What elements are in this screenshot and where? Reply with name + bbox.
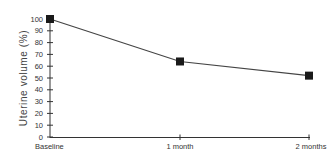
y-tick-label: 80: [35, 38, 43, 47]
y-tick-label: 10: [35, 121, 43, 130]
y-tick-label: 30: [35, 97, 43, 106]
y-tick-label: 60: [35, 62, 43, 71]
x-tick-label: Baseline: [35, 142, 64, 151]
y-tick-label: 20: [35, 109, 43, 118]
x-tick-label: 1 month: [166, 142, 193, 151]
y-tick-label: 50: [35, 74, 43, 83]
y-axis-title-group: Uterine volume (%): [18, 30, 29, 126]
square-marker-icon: [46, 15, 54, 23]
y-tick-label: 90: [35, 26, 43, 35]
y-axis: 0102030405060708090100: [30, 15, 53, 142]
line-chart: Uterine volume (%) 010203040506070809010…: [0, 0, 334, 163]
y-tick-label: 40: [35, 85, 43, 94]
y-axis-title: Uterine volume (%): [18, 30, 29, 126]
square-marker-icon: [305, 72, 313, 80]
y-tick-label: 100: [30, 15, 43, 24]
x-axis: Baseline1 month2 months: [35, 135, 327, 152]
y-tick-label: 70: [35, 50, 43, 59]
x-tick-label: 2 months: [296, 142, 327, 151]
data-series: [46, 15, 313, 80]
y-tick-label: 0: [39, 133, 43, 142]
series-line: [50, 19, 309, 76]
square-marker-icon: [176, 57, 184, 65]
